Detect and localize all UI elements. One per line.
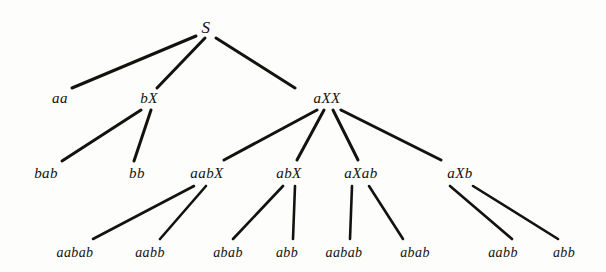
- tree-edges-canvas: [0, 0, 606, 272]
- tree-edge: [160, 186, 206, 239]
- tree-edge: [450, 186, 512, 239]
- tree-edge: [233, 186, 283, 239]
- tree-node-n11: aabb: [135, 246, 165, 260]
- tree-edge: [216, 38, 295, 88]
- tree-node-n7: abX: [276, 166, 301, 181]
- tree-node-n8: aXab: [344, 166, 377, 181]
- tree-node-n16: aabb: [488, 246, 518, 260]
- tree-node-n4: bab: [34, 166, 58, 181]
- tree-edge: [369, 186, 403, 239]
- tree-edge: [93, 186, 194, 239]
- tree-edge: [224, 110, 317, 160]
- tree-node-n14: aabab: [326, 246, 363, 260]
- tree-edge: [134, 110, 151, 161]
- tree-edge: [157, 38, 205, 88]
- tree-edge: [341, 110, 441, 160]
- tree-node-n15: abab: [400, 246, 430, 260]
- derivation-tree-figure: SaabXaXXbabbbaabXabXaXabaXbaababaabbabab…: [0, 0, 606, 272]
- tree-edge: [62, 110, 141, 161]
- tree-node-n0: S: [202, 19, 211, 36]
- tree-node-n5: bb: [129, 166, 145, 181]
- tree-node-n1: aa: [52, 91, 68, 106]
- tree-node-n9: aXb: [447, 166, 472, 181]
- tree-edge: [72, 36, 196, 88]
- edge-group: [62, 36, 558, 239]
- tree-node-n13: abb: [276, 246, 298, 260]
- tree-node-n2: bX: [140, 91, 157, 106]
- tree-node-n6: aabX: [190, 166, 223, 181]
- tree-node-n17: abb: [553, 246, 575, 260]
- tree-edge: [293, 186, 295, 239]
- tree-edge: [473, 186, 558, 239]
- tree-node-n3: aXX: [313, 91, 340, 106]
- tree-edge: [350, 186, 352, 239]
- tree-node-n12: abab: [213, 246, 243, 260]
- tree-node-n10: aabab: [57, 246, 94, 260]
